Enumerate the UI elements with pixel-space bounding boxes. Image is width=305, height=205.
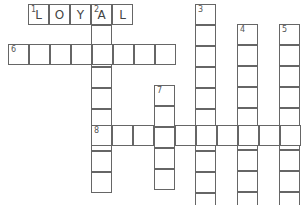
clue-number: 7 (157, 86, 162, 95)
crossword-cell[interactable] (154, 127, 175, 148)
crossword-cell[interactable] (259, 125, 280, 146)
crossword-cell[interactable] (237, 171, 258, 192)
crossword-cell[interactable] (195, 193, 216, 205)
crossword-cell[interactable] (279, 45, 300, 66)
crossword-cell[interactable] (154, 148, 175, 169)
crossword-cell[interactable] (279, 150, 300, 171)
cell-letter: L (113, 8, 132, 22)
crossword-cell[interactable] (134, 44, 155, 65)
crossword-cell[interactable]: 8 (91, 125, 112, 146)
crossword-cell[interactable]: 7 (154, 85, 175, 106)
crossword-cell[interactable] (279, 66, 300, 87)
crossword-cell[interactable] (175, 125, 196, 146)
crossword-cell[interactable] (113, 44, 134, 65)
cell-letter: L (29, 8, 48, 22)
crossword-cell[interactable]: 1L (28, 4, 49, 25)
clue-number: 6 (11, 45, 16, 54)
clue-number: 8 (94, 126, 99, 135)
crossword-cell[interactable] (195, 25, 216, 46)
crossword-cell[interactable]: A2 (91, 4, 112, 25)
clue-number: 5 (282, 25, 287, 34)
crossword-cell[interactable]: 5 (279, 24, 300, 45)
clue-number: 4 (240, 25, 245, 34)
clue-number: 3 (198, 5, 203, 14)
crossword-cell[interactable] (195, 67, 216, 88)
crossword-cell[interactable] (237, 87, 258, 108)
crossword-cell[interactable] (154, 106, 175, 127)
crossword-cell[interactable] (91, 172, 112, 193)
crossword-cell[interactable] (155, 44, 176, 65)
crossword-cell[interactable]: 3 (195, 4, 216, 25)
crossword-cell[interactable] (238, 125, 259, 146)
cell-letter: Y (71, 8, 90, 22)
crossword-cell[interactable]: 6 (8, 44, 29, 65)
crossword-cell[interactable] (279, 192, 300, 205)
crossword-cell[interactable] (237, 45, 258, 66)
crossword-cell[interactable] (237, 66, 258, 87)
crossword-cell[interactable] (196, 125, 217, 146)
crossword-cell[interactable] (92, 44, 113, 65)
crossword-cell[interactable] (195, 88, 216, 109)
crossword-cell[interactable] (195, 46, 216, 67)
crossword-cell[interactable] (217, 125, 238, 146)
crossword-cell[interactable] (280, 125, 301, 146)
crossword-cell[interactable] (29, 44, 50, 65)
crossword-cell[interactable] (112, 125, 133, 146)
crossword-cell[interactable] (279, 171, 300, 192)
crossword-cell[interactable] (50, 44, 71, 65)
crossword-cell[interactable] (133, 125, 154, 146)
crossword-cell[interactable]: L (112, 4, 133, 25)
crossword-cell[interactable] (237, 192, 258, 205)
crossword-cell[interactable] (237, 150, 258, 171)
crossword-cell[interactable] (91, 67, 112, 88)
clue-number: 2 (94, 5, 99, 14)
crossword-cell[interactable]: Y (70, 4, 91, 25)
crossword-cell[interactable] (91, 151, 112, 172)
crossword-cell[interactable] (71, 44, 92, 65)
crossword-cell[interactable] (91, 25, 112, 46)
crossword-cell[interactable] (195, 151, 216, 172)
crossword-cell[interactable]: 4 (237, 24, 258, 45)
crossword-cell[interactable] (279, 87, 300, 108)
cell-letter: O (50, 8, 69, 22)
crossword-cell[interactable] (195, 172, 216, 193)
crossword-cell[interactable] (154, 169, 175, 190)
crossword-cell[interactable]: O (49, 4, 70, 25)
crossword-cell[interactable] (91, 88, 112, 109)
